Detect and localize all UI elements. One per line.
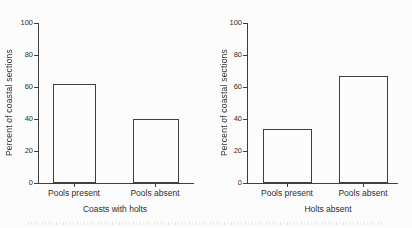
y-axis-tick-20 — [243, 151, 247, 152]
y-axis-tick-0 — [34, 183, 38, 184]
category-label-pools-absent: Pools absent — [115, 188, 195, 198]
category-label-pools-absent: Pools absent — [323, 188, 403, 198]
y-tick-label-100: 100 — [11, 19, 33, 27]
y-axis-tick-80 — [34, 55, 38, 56]
y-axis-tick-100 — [34, 23, 38, 24]
y-axis-tick-60 — [243, 87, 247, 88]
y-tick-label-20: 20 — [220, 147, 242, 155]
y-axis-tick-40 — [34, 119, 38, 120]
y-axis-label: Percent of coastal sections — [217, 23, 231, 183]
bar-pools-absent — [133, 119, 179, 183]
x-axis-tick-pools-present — [74, 184, 75, 187]
y-axis-tick-60 — [34, 87, 38, 88]
x-axis-title: Coasts with holts — [55, 204, 175, 214]
y-axis-tick-100 — [243, 23, 247, 24]
y-axis-tick-80 — [243, 55, 247, 56]
y-tick-label-40: 40 — [11, 115, 33, 123]
y-tick-label-40: 40 — [220, 115, 242, 123]
plot-area — [247, 23, 398, 184]
category-label-pools-present: Pools present — [247, 188, 327, 198]
y-axis-tick-40 — [243, 119, 247, 120]
bar-chart-coasts-with-holts: Percent of coastal sections Coasts with … — [0, 0, 206, 228]
plot-area — [38, 23, 194, 184]
bar-pools-present — [263, 129, 312, 183]
x-axis-title: Holts absent — [268, 204, 388, 214]
x-axis-tick-pools-absent — [155, 184, 156, 187]
y-tick-label-0: 0 — [11, 179, 33, 187]
y-tick-label-80: 80 — [11, 51, 33, 59]
x-axis-tick-pools-absent — [363, 184, 364, 187]
bar-pools-absent — [339, 76, 388, 183]
cutoff-caption-remnant — [28, 222, 384, 225]
y-axis-label: Percent of coastal sections — [2, 23, 16, 183]
x-axis-tick-pools-present — [287, 184, 288, 187]
y-axis-tick-0 — [243, 183, 247, 184]
figure-two-bar-charts: Percent of coastal sections Coasts with … — [0, 0, 412, 228]
y-tick-label-100: 100 — [220, 19, 242, 27]
y-axis-tick-20 — [34, 151, 38, 152]
bar-chart-holts-absent: Percent of coastal sections Holts absent… — [206, 0, 412, 228]
y-tick-label-60: 60 — [11, 83, 33, 91]
category-label-pools-present: Pools present — [34, 188, 114, 198]
y-tick-label-0: 0 — [220, 179, 242, 187]
y-tick-label-60: 60 — [220, 83, 242, 91]
y-tick-label-80: 80 — [220, 51, 242, 59]
bar-pools-present — [53, 84, 96, 183]
y-tick-label-20: 20 — [11, 147, 33, 155]
